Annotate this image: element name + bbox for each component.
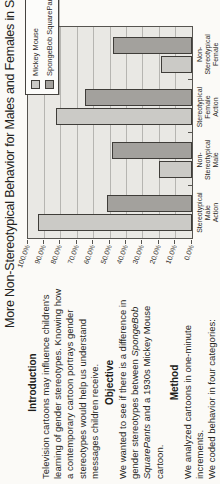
y-axis-tick	[76, 240, 77, 244]
legend-entry-spongebob: SpongeBob SquarePants	[43, 0, 55, 89]
section-body-objective: We wanted to see if there is a differenc…	[117, 286, 166, 479]
legend-entry-mickey-mouse: Mickey Mouse	[29, 0, 41, 89]
bar	[161, 56, 192, 73]
category-axis-tick	[188, 132, 192, 133]
category-label: Non-StereotypicalFemaleAction	[196, 28, 220, 81]
bar	[159, 161, 192, 178]
bar	[107, 195, 192, 212]
bar	[113, 37, 192, 54]
category-label: StereotypicalMaleAction	[196, 186, 220, 239]
section-body-method: We analyzed cartoons in one-minuteincrem…	[182, 286, 219, 479]
gridline	[93, 27, 94, 238]
y-axis-tick	[92, 240, 93, 244]
mickey-mouse-swatch	[31, 80, 40, 89]
legend-label: SpongeBob SquarePants	[45, 0, 54, 76]
bar	[38, 214, 192, 231]
y-axis-tick	[158, 240, 159, 244]
bar	[112, 142, 192, 159]
chart-legend: Mickey Mouse SpongeBob SquarePants	[25, 0, 59, 95]
bar	[85, 90, 192, 107]
y-axis-tick	[125, 240, 126, 244]
bar	[56, 109, 192, 126]
y-axis-tick	[109, 240, 110, 244]
category-axis-tick	[188, 79, 192, 80]
y-axis-tick	[27, 240, 28, 244]
category-axis-tick	[188, 185, 192, 186]
spongebob-swatch	[45, 80, 54, 89]
gridline	[77, 27, 78, 238]
legend-label: Mickey Mouse	[31, 28, 40, 76]
category-label: StereotypicalFemaleAction	[196, 81, 220, 134]
y-axis-tick	[174, 240, 175, 244]
y-axis-tick	[191, 240, 192, 244]
gridline	[60, 27, 61, 238]
y-axis-tick	[43, 240, 44, 244]
rotated-poster-page: More Non-Stereotypical Behavior for Male…	[0, 0, 220, 484]
y-axis-tick	[141, 240, 142, 244]
y-axis-tick	[59, 240, 60, 244]
category-label: Non-StereotypicalMaleAction	[196, 134, 220, 187]
